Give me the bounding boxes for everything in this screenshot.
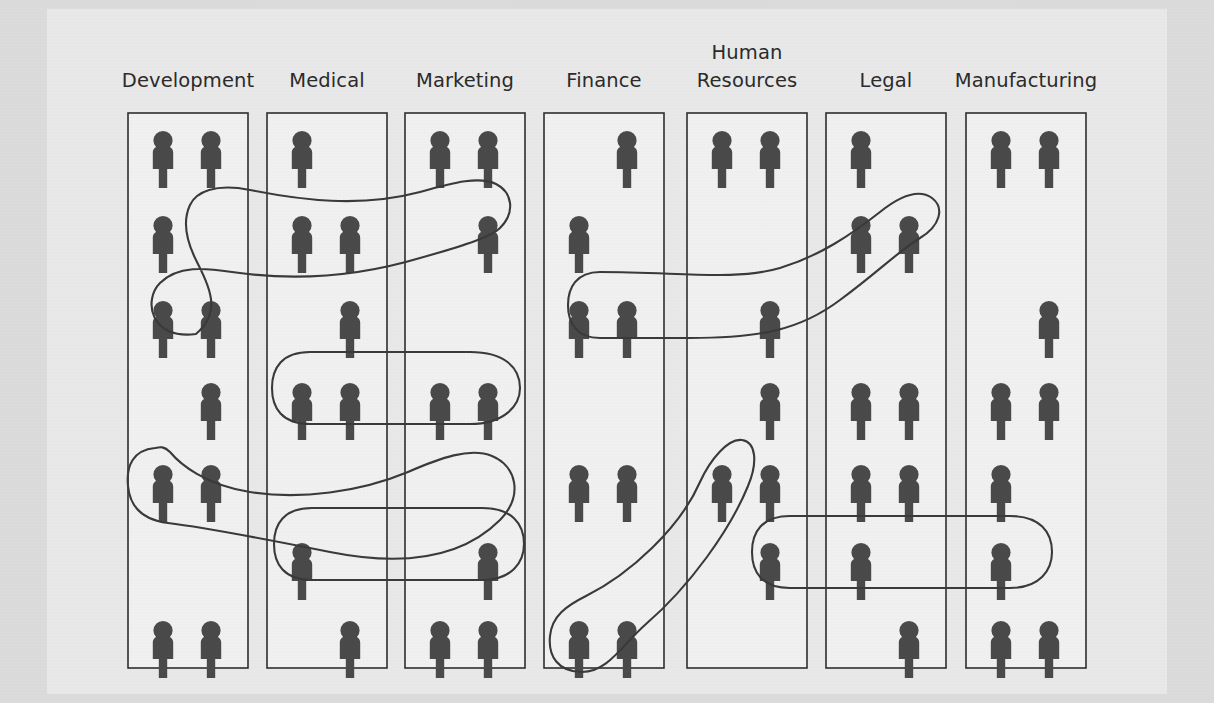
person-icon[interactable] [1039, 621, 1059, 678]
person-icon[interactable] [569, 621, 589, 678]
column-labels: Development Medical Marketing Finance Hu… [122, 41, 1097, 92]
person-icon[interactable] [153, 621, 173, 678]
column-label-human-resources-line2: Resources [697, 69, 798, 92]
column-box-human-resources[interactable] [687, 113, 807, 668]
person-icon[interactable] [201, 621, 221, 678]
column-box-manufacturing[interactable] [966, 113, 1086, 668]
column-box-marketing[interactable] [405, 113, 525, 668]
person-icon[interactable] [430, 621, 450, 678]
person-icon[interactable] [899, 621, 919, 678]
diagram-stage: Development Medical Marketing Finance Hu… [0, 0, 1214, 724]
department-network-diagram: Development Medical Marketing Finance Hu… [0, 0, 1214, 724]
column-label-human-resources-line1: Human [712, 41, 783, 64]
column-label-medical: Medical [289, 69, 364, 92]
column-label-legal: Legal [860, 69, 913, 92]
column-label-manufacturing: Manufacturing [955, 69, 1098, 92]
person-icon[interactable] [991, 621, 1011, 678]
column-label-finance: Finance [566, 69, 641, 92]
person-icon[interactable] [340, 621, 360, 678]
person-icon[interactable] [478, 621, 498, 678]
column-label-development: Development [122, 69, 255, 92]
column-label-marketing: Marketing [416, 69, 514, 92]
column-box-development[interactable] [128, 113, 248, 668]
